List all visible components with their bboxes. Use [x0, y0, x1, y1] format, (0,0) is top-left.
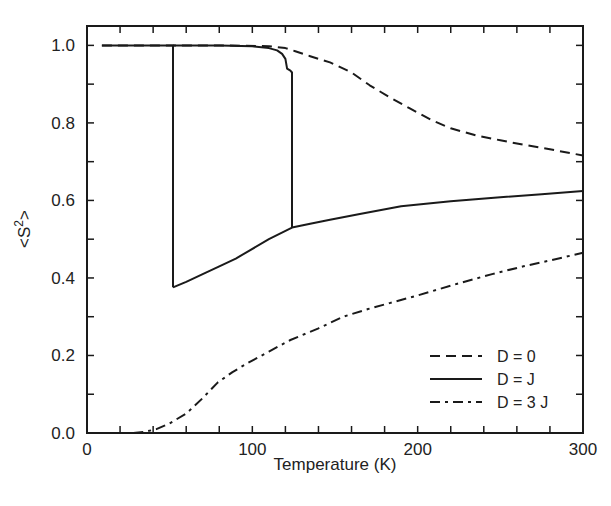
legend-item-d0: D = 0 [430, 348, 536, 365]
y-tick-label: 0.2 [51, 346, 75, 365]
y-tick-label: 0.8 [51, 114, 75, 133]
y-axis-tick-labels: 0.00.20.40.60.81.0 [51, 36, 75, 443]
series-d-0 [102, 45, 583, 155]
legend-label-dj: D = J [497, 371, 535, 388]
legend-item-dj: D = J [430, 371, 535, 388]
legend-label-d0: D = 0 [497, 348, 536, 365]
x-tick-label: 100 [238, 440, 266, 459]
series-d-j [173, 45, 292, 227]
series-d-j [173, 191, 583, 287]
y-tick-label: 0.4 [51, 269, 75, 288]
x-tick-label: 200 [403, 440, 431, 459]
y-tick-label: 0.6 [51, 191, 75, 210]
x-tick-label: 0 [82, 440, 91, 459]
series-d-j [102, 45, 173, 287]
y-tick-label: 0.0 [51, 424, 75, 443]
legend-label-d3j: D = 3 J [497, 394, 548, 411]
legend-item-d3j: D = 3 J [430, 394, 548, 411]
spin-correlation-chart: 0100200300 0.00.20.40.60.81.0 Temperatur… [0, 0, 611, 506]
y-tick-label: 1.0 [51, 36, 75, 55]
y-axis-label: <S2> [12, 210, 34, 248]
x-tick-label: 300 [569, 440, 597, 459]
legend: D = 0 D = J D = 3 J [430, 348, 548, 411]
x-axis-label: Temperature (K) [274, 455, 397, 474]
